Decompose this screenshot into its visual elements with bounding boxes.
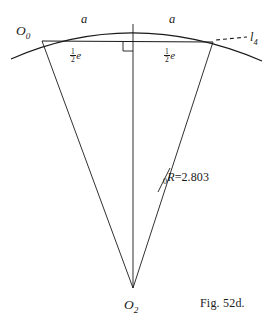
half-chord-label-right: 1 2 e — [164, 48, 175, 64]
point-label-o0-subscript: 0 — [26, 31, 31, 41]
radius-line-left — [42, 41, 133, 288]
point-label-o2: O2 — [124, 298, 138, 315]
half-chord-numerator-left: 1 — [70, 48, 76, 56]
radius-line-right — [133, 42, 213, 288]
point-label-o2-subscript: 2 — [134, 305, 139, 315]
half-chord-label-left: 1 2 e — [70, 48, 81, 64]
point-label-o2-letter: O — [124, 297, 134, 312]
circle-arc — [11, 33, 262, 61]
chord-line — [42, 41, 213, 42]
half-chord-fraction-right: 1 2 — [164, 48, 170, 64]
radius-equals-sign: = — [175, 170, 182, 184]
half-chord-denominator-left: 2 — [70, 55, 76, 64]
half-chord-numerator-right: 1 — [164, 48, 170, 56]
point-label-o0-letter: O — [16, 23, 26, 38]
radius-symbol: R — [167, 170, 174, 184]
radius-value-number: 2.803 — [182, 170, 210, 184]
figure-52d: O0 O2 a a 1 2 e 1 2 e l4 0R=2.803 Fig. 5… — [0, 0, 273, 327]
tangent-line-label: l4 — [250, 31, 258, 46]
figure-caption: Fig. 52d. — [200, 297, 245, 309]
right-angle-marker — [123, 42, 133, 51]
diagram-canvas — [0, 0, 273, 327]
half-chord-symbol-right: e — [170, 49, 175, 61]
arc-label-right: a — [169, 13, 175, 26]
dashed-leader-line — [216, 37, 247, 40]
point-label-o0: O0 — [16, 24, 30, 41]
half-chord-denominator-right: 2 — [164, 55, 170, 64]
half-chord-symbol-left: e — [76, 49, 81, 61]
radius-value-label: 0R=2.803 — [163, 171, 209, 187]
arc-label-left: a — [81, 13, 87, 26]
tangent-line-subscript: 4 — [253, 37, 257, 47]
half-chord-fraction-left: 1 2 — [70, 48, 76, 64]
